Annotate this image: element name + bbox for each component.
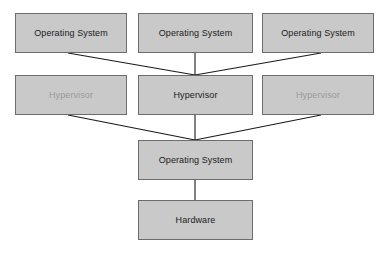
node-label-hypervisor-right: Hypervisor [296,90,340,101]
hypervisor-architecture-diagram: Operating System Operating System Operat… [0,0,388,255]
node-hardware: Hardware [138,200,253,240]
node-operating-system-right: Operating System [262,13,374,53]
node-label-operating-system-center: Operating System [159,28,233,39]
node-label-hypervisor-left: Hypervisor [49,90,93,101]
node-label-operating-system-right: Operating System [281,28,355,39]
connector-hypervisor-left-to-host-os [68,115,195,140]
node-hypervisor-right: Hypervisor [262,75,374,115]
connector-os-right-to-hypervisor-center [195,53,321,75]
node-label-host-operating-system: Operating System [159,155,233,166]
node-host-operating-system: Operating System [138,140,253,180]
connector-hypervisor-right-to-host-os [195,115,321,140]
node-label-operating-system-left: Operating System [34,28,108,39]
node-hypervisor-left: Hypervisor [15,75,127,115]
node-operating-system-left: Operating System [15,13,127,53]
node-label-hardware: Hardware [176,215,216,226]
node-label-hypervisor-center: Hypervisor [173,90,217,101]
node-operating-system-center: Operating System [138,13,253,53]
node-hypervisor-center: Hypervisor [138,75,253,115]
connector-os-left-to-hypervisor-center [68,53,195,75]
